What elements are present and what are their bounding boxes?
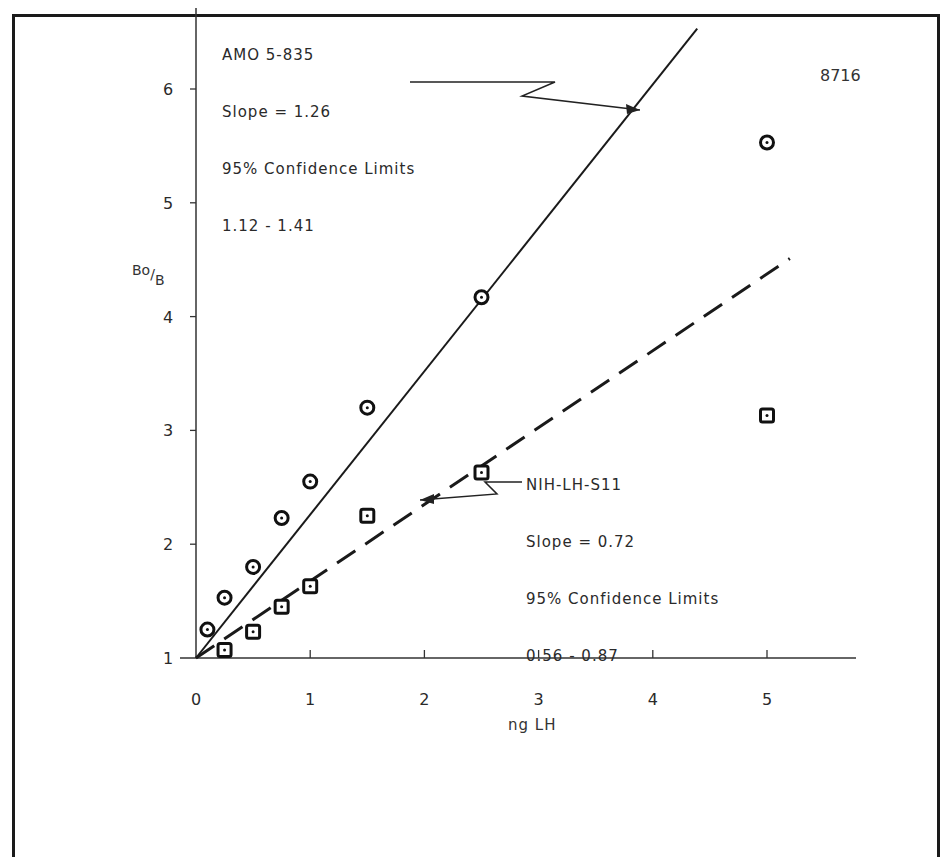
y-tick-label: 5 (163, 194, 173, 213)
y-tick-label: 3 (163, 421, 173, 440)
nih-ci-label: 95% Confidence Limits (526, 590, 719, 609)
amo-ci-value: 1.12 - 1.41 (222, 217, 415, 236)
amo-ci-label: 95% Confidence Limits (222, 160, 415, 179)
y-tick-label: 2 (163, 535, 173, 554)
amo-annotation: AMO 5-835 Slope = 1.26 95% Confidence Li… (222, 8, 415, 255)
x-tick-label: 3 (534, 690, 544, 709)
figure-number: 8716 (820, 66, 861, 85)
amo-arrow (410, 82, 640, 110)
y-ticks: 123456 (163, 80, 196, 668)
y-tick-label: 6 (163, 80, 173, 99)
nih-annotation: NIH-LH-S11 Slope = 0.72 95% Confidence L… (526, 438, 719, 685)
nih-name: NIH-LH-S11 (526, 476, 719, 495)
y-axis-label: Bo/B (132, 262, 165, 278)
y-tick-label: 4 (163, 308, 173, 327)
amo-name: AMO 5-835 (222, 46, 415, 65)
nih-slope: Slope = 0.72 (526, 533, 719, 552)
x-tick-label: 2 (419, 690, 429, 709)
y-tick-label: 1 (163, 649, 173, 668)
x-axis-label: ng LH (508, 716, 556, 734)
nih-ci-value: 0.56 - 0.87 (526, 647, 719, 666)
amo-slope: Slope = 1.26 (222, 103, 415, 122)
x-tick-label: 0 (191, 690, 201, 709)
x-tick-label: 1 (305, 690, 315, 709)
y-label-numerator: Bo (132, 262, 150, 278)
y-label-denominator: B (155, 272, 165, 288)
x-tick-label: 5 (762, 690, 772, 709)
x-tick-label: 4 (648, 690, 658, 709)
